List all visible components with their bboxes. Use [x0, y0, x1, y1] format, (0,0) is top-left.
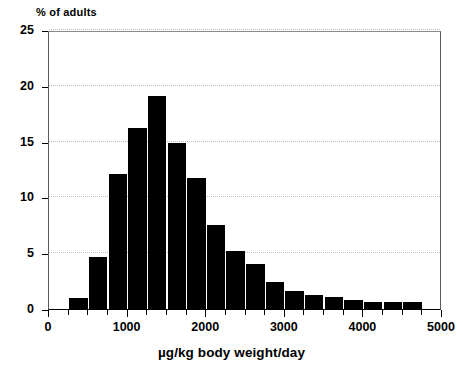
- bar: [226, 251, 244, 309]
- x-axis-tick-label: 0: [18, 320, 78, 334]
- x-axis-minor-tick: [264, 310, 265, 315]
- chart-container: % of adults 0510152025 01000200030004000…: [0, 0, 463, 383]
- bar: [285, 291, 303, 309]
- x-axis-minor-tick: [303, 310, 304, 315]
- x-axis-minor-tick: [107, 310, 108, 315]
- bar: [89, 257, 107, 309]
- bar: [344, 300, 362, 309]
- plot-area: [48, 31, 441, 310]
- x-axis-major-tick: [127, 310, 128, 317]
- bar-series: [49, 32, 440, 309]
- x-axis-tick-label: 4000: [332, 320, 392, 334]
- y-axis-tick: [42, 87, 48, 88]
- x-axis-minor-tick: [225, 310, 226, 315]
- y-axis-tick-label: 5: [4, 246, 34, 260]
- y-axis-tick-label: 0: [4, 302, 34, 316]
- y-axis-tick-label: 10: [4, 190, 34, 204]
- x-axis-minor-tick: [421, 310, 422, 315]
- x-axis-major-tick: [48, 310, 49, 317]
- x-axis-major-tick: [441, 310, 442, 317]
- bar: [364, 302, 382, 309]
- bar: [325, 297, 343, 309]
- bar: [246, 264, 264, 309]
- y-axis-tick: [42, 31, 48, 32]
- x-axis-minor-tick: [382, 310, 383, 315]
- x-axis-major-tick: [205, 310, 206, 317]
- x-axis-minor-tick: [166, 310, 167, 315]
- x-axis-tick-label: 1000: [97, 320, 157, 334]
- bar: [168, 143, 186, 309]
- y-axis-tick: [42, 254, 48, 255]
- x-axis-minor-tick: [323, 310, 324, 315]
- x-axis-tick-label: 3000: [254, 320, 314, 334]
- y-axis-tick: [42, 143, 48, 144]
- x-axis-minor-tick: [68, 310, 69, 315]
- x-axis-minor-tick: [186, 310, 187, 315]
- x-axis-minor-tick: [343, 310, 344, 315]
- y-axis-tick-label: 25: [4, 23, 34, 37]
- bar: [109, 174, 127, 309]
- x-axis-major-tick: [362, 310, 363, 317]
- bar: [384, 302, 402, 309]
- bar: [148, 96, 166, 309]
- x-axis-minor-tick: [87, 310, 88, 315]
- y-axis-tick-label: 15: [4, 135, 34, 149]
- bar: [187, 178, 205, 309]
- bar: [128, 128, 146, 309]
- bar: [69, 298, 87, 309]
- y-axis-tick: [42, 198, 48, 199]
- gridline: [49, 29, 440, 30]
- bar: [266, 282, 284, 309]
- x-axis-minor-tick: [146, 310, 147, 315]
- y-axis-title: % of adults: [36, 6, 97, 18]
- x-axis-minor-tick: [245, 310, 246, 315]
- bar: [207, 225, 225, 309]
- bar: [305, 295, 323, 310]
- bar: [403, 302, 421, 309]
- x-axis-title: µg/kg body weight/day: [0, 345, 463, 360]
- y-axis-tick-label: 20: [4, 79, 34, 93]
- x-axis-tick-label: 5000: [411, 320, 463, 334]
- x-axis-major-tick: [284, 310, 285, 317]
- x-axis-tick-label: 2000: [175, 320, 235, 334]
- x-axis-minor-tick: [402, 310, 403, 315]
